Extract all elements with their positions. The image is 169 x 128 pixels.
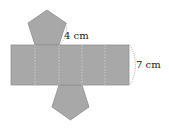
height-label: 7 cm — [136, 59, 161, 70]
height-dimension-arc — [130, 45, 136, 85]
lateral-faces-rectangle — [11, 45, 129, 85]
prism-net-diagram: 4 cm 7 cm — [0, 0, 169, 128]
edge-length-label: 4 cm — [64, 30, 89, 41]
bottom-pentagon-face — [52, 85, 89, 120]
top-pentagon-face — [28, 10, 66, 45]
